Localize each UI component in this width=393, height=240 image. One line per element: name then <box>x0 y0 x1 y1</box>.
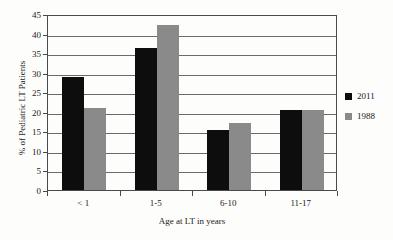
legend-swatch-icon <box>345 113 352 120</box>
bar-1988-610 <box>229 123 251 190</box>
bar-2011-610 <box>207 130 229 190</box>
x-tick-mark <box>120 191 121 196</box>
legend-label: 2011 <box>357 92 375 101</box>
plot-area <box>47 15 337 191</box>
bar-1988-15 <box>157 25 179 190</box>
legend-swatch-icon <box>345 93 352 100</box>
gridline <box>48 75 336 76</box>
y-tick-label: 0 <box>11 187 41 196</box>
y-tick-label: 25 <box>11 89 41 98</box>
chart-legend: 20111988 <box>345 88 375 128</box>
legend-item-1988: 1988 <box>345 108 375 124</box>
x-tick-mark <box>47 191 48 196</box>
y-tick-label: 20 <box>11 108 41 117</box>
y-tick-label: 30 <box>11 69 41 78</box>
x-tick-label: 6-10 <box>193 198 263 208</box>
x-tick-mark <box>192 191 193 196</box>
y-tick-label: 45 <box>11 11 41 20</box>
x-tick-mark <box>265 191 266 196</box>
legend-item-2011: 2011 <box>345 88 375 104</box>
y-tick-label: 40 <box>11 30 41 39</box>
x-tick-label: 1-5 <box>121 198 191 208</box>
gridline <box>48 36 336 37</box>
y-tick-label: 10 <box>11 147 41 156</box>
gridline <box>48 94 336 95</box>
x-tick-mark <box>337 191 338 196</box>
bar-2011-1 <box>62 77 84 190</box>
bar-2011-15 <box>135 48 157 190</box>
bar-1988-1117 <box>302 110 324 190</box>
bar-1988-1 <box>84 108 106 190</box>
bar-2011-1117 <box>280 110 302 190</box>
chart-figure: % of Pediatric LT Patients 0510152025303… <box>0 0 393 240</box>
legend-label: 1988 <box>357 112 375 121</box>
y-tick-label: 15 <box>11 128 41 137</box>
x-tick-label: < 1 <box>48 198 118 208</box>
x-axis-title: Age at LT in years <box>47 216 337 226</box>
x-tick-label: 11-17 <box>266 198 336 208</box>
y-tick-label: 35 <box>11 50 41 59</box>
gridline <box>48 55 336 56</box>
y-tick-label: 5 <box>11 167 41 176</box>
